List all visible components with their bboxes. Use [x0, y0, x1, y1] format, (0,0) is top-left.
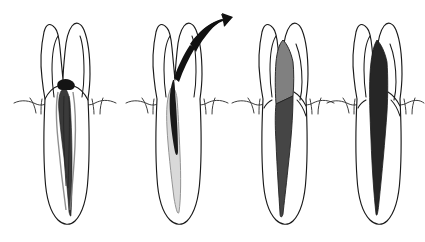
illustration-canvas: Endodontic post removal and canal obtura… [0, 0, 425, 242]
endodontic-figure [0, 0, 425, 242]
